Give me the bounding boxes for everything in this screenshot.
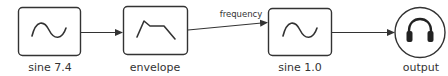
node-sine-7-4[interactable]: sine 7.4 [19,8,81,75]
node-output[interactable]: output [395,8,445,75]
node-label: envelope [130,61,181,74]
audio-graph-diagram: sine 7.4 envelope sine 1.0 output freque… [0,0,448,76]
edge-label-frequency: frequency [220,9,263,19]
node-label: sine 1.0 [278,61,322,74]
node-envelope[interactable]: envelope [124,7,188,75]
edge-envelope-sine2 [188,23,267,31]
node-sine-1-0[interactable]: sine 1.0 [269,9,332,75]
node-label: output [403,61,440,74]
node-label: sine 7.4 [28,61,72,74]
